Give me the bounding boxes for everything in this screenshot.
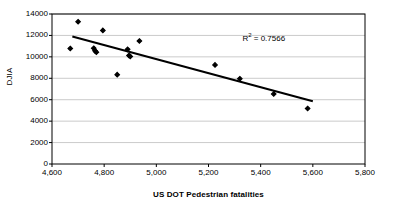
x-axis-tick-label: 5,000	[136, 168, 176, 177]
data-point	[213, 63, 218, 68]
y-axis-tick-label: 2000	[14, 139, 48, 147]
x-axis-tick-label: 4,600	[32, 168, 72, 177]
x-axis-tick-label: 5,200	[189, 168, 229, 177]
data-point	[68, 46, 73, 51]
scatter-chart: 02000400060008000100001200014000 4,6004,…	[0, 0, 394, 213]
y-axis-tick-label: 4000	[14, 117, 48, 125]
data-point	[137, 39, 142, 44]
x-axis-tick-label: 5,600	[293, 168, 333, 177]
x-axis-tick-label: 5,400	[241, 168, 281, 177]
data-point	[101, 28, 106, 33]
y-axis-title: DJIA	[5, 47, 14, 107]
x-axis-tick-label-wrap: 5,000	[136, 168, 176, 178]
y-axis-tick-label: 8000	[14, 74, 48, 82]
r-squared-value: = 0.7566	[252, 34, 286, 43]
plot-area-border	[52, 14, 365, 164]
x-axis-tick-label-wrap: 5,800	[345, 168, 385, 178]
y-axis-tick-label: 10000	[14, 53, 48, 61]
y-axis-tick-label: 12000	[14, 31, 48, 39]
y-axis-tick-label: 0	[14, 160, 48, 168]
r-squared-annotation: R2 = 0.7566	[242, 34, 285, 43]
y-axis-tick-label: 14000	[14, 10, 48, 18]
data-point	[76, 19, 81, 24]
x-axis-tick-label-wrap: 4,600	[32, 168, 72, 178]
plot-canvas	[0, 0, 394, 213]
x-axis-tick-label: 5,800	[345, 168, 385, 177]
gridlines	[52, 14, 365, 143]
x-axis-tick-label-wrap: 5,400	[241, 168, 281, 178]
x-axis-title: US DOT Pedestrian fatalities	[52, 190, 365, 199]
x-axis-tick-label: 4,800	[84, 168, 124, 177]
x-axis-tick-label-wrap: 4,800	[84, 168, 124, 178]
x-axis-tick-label-wrap: 5,200	[189, 168, 229, 178]
x-axis-tick-label-wrap: 5,600	[293, 168, 333, 178]
data-point	[305, 106, 310, 111]
data-point	[115, 72, 120, 77]
linear-trendline	[72, 37, 312, 102]
data-point	[271, 92, 276, 97]
y-axis-tick-label: 6000	[14, 96, 48, 104]
